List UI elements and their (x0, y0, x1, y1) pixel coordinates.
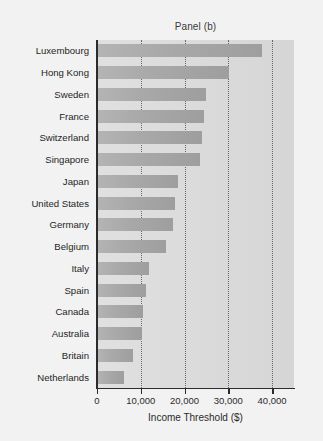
bar-row (97, 175, 294, 188)
category-label-united-states: United States (31, 197, 89, 210)
bar-row (97, 284, 294, 297)
category-label-luxembourg: Luxembourg (36, 44, 89, 57)
bar-canada (97, 305, 143, 318)
bar-hong-kong (97, 66, 229, 79)
tick-mark-30000 (228, 389, 229, 394)
category-label-italy: Italy (71, 262, 89, 275)
category-label-spain: Spain (64, 284, 89, 297)
bar-row (97, 44, 294, 57)
bar-japan (97, 175, 178, 188)
tick-mark-40000 (272, 389, 273, 394)
tick-label-30000: 30,000 (214, 395, 243, 406)
bar-france (97, 110, 204, 123)
x-axis-title: Income Threshold ($) (97, 412, 294, 423)
category-label-canada: Canada (55, 305, 89, 318)
bar-netherlands (97, 371, 124, 384)
bar-row (97, 153, 294, 166)
bar-row (97, 197, 294, 210)
bar-australia (97, 327, 142, 340)
tick-label-10000: 10,000 (126, 395, 155, 406)
category-label-germany: Germany (50, 218, 89, 231)
plot-area (97, 40, 294, 388)
tick-mark-20000 (185, 389, 186, 394)
bar-italy (97, 262, 149, 275)
bar-row (97, 240, 294, 253)
bar-row (97, 66, 294, 79)
bar-row (97, 305, 294, 318)
y-axis-line (96, 40, 98, 389)
bar-row (97, 131, 294, 144)
bar-singapore (97, 153, 200, 166)
bar-row (97, 88, 294, 101)
category-label-france: France (59, 110, 89, 123)
tick-label-40000: 40,000 (258, 395, 287, 406)
tick-label-0: 0 (94, 395, 99, 406)
bar-belgium (97, 240, 166, 253)
category-label-britain: Britain (62, 349, 89, 362)
bar-row (97, 371, 294, 384)
bar-row (97, 110, 294, 123)
bar-luxembourg (97, 44, 262, 57)
bar-switzerland (97, 131, 202, 144)
category-label-sweden: Sweden (54, 88, 89, 101)
bar-row (97, 262, 294, 275)
category-label-belgium: Belgium (54, 240, 89, 253)
chart-figure: Panel (b) 010,00020,00030,00040,000 Luxe… (0, 0, 323, 441)
x-axis-line (96, 388, 295, 389)
chart-title: Panel (b) (97, 21, 294, 32)
category-label-switzerland: Switzerland (39, 131, 89, 144)
bar-row (97, 327, 294, 340)
category-label-singapore: Singapore (45, 153, 89, 166)
category-label-australia: Australia (52, 327, 89, 340)
bar-united-states (97, 197, 175, 210)
tick-label-20000: 20,000 (170, 395, 199, 406)
bar-britain (97, 349, 133, 362)
category-label-japan: Japan (63, 175, 89, 188)
bar-germany (97, 218, 173, 231)
tick-mark-10000 (141, 389, 142, 394)
bar-sweden (97, 88, 206, 101)
tick-mark-0 (97, 389, 98, 394)
category-label-hong-kong: Hong Kong (41, 66, 89, 79)
category-label-netherlands: Netherlands (37, 371, 89, 384)
bar-row (97, 349, 294, 362)
bar-row (97, 218, 294, 231)
bar-spain (97, 284, 146, 297)
